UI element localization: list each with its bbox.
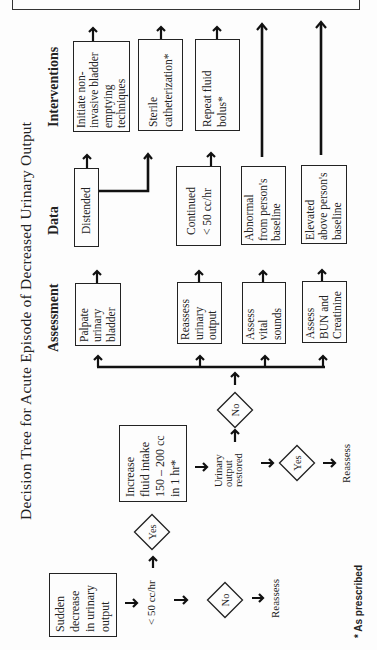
data-box-continued-low-output: Continued < 50 cc/hr <box>176 166 221 246</box>
distended-connector-line <box>99 155 148 191</box>
box-line: urinary <box>193 286 207 340</box>
box-line: urinary <box>91 287 105 342</box>
arrow-right-icon <box>259 271 267 282</box>
condition-label: < 50 cc/hr <box>146 580 157 625</box>
box-line: BUN and <box>318 285 332 339</box>
box-line: Assess <box>304 285 318 339</box>
label-line: restored <box>234 453 244 487</box>
assessment-box-palpate-bladder: Palpate urinary bladder <box>75 283 121 346</box>
box-line: fluid intake <box>138 430 153 497</box>
data-box-abnormal-baseline: Abnormal from person's baseline <box>241 166 286 245</box>
box-line: output <box>98 578 113 632</box>
box-line: in 1 hr* <box>168 430 183 497</box>
box-line: decrease <box>68 578 83 632</box>
box-line: < 50 cc/hr <box>199 170 215 235</box>
reassess-label-1: Reassess <box>270 579 281 618</box>
box-line: output <box>206 286 220 340</box>
arrow-right-icon <box>231 430 239 442</box>
box-line: Initiate non- <box>75 45 89 128</box>
box-line: Reassess <box>179 286 193 340</box>
assessment-box-reassess-output: Reassess urinary output <box>177 282 222 344</box>
box-line: bolus* <box>215 43 230 127</box>
box-line: from person's <box>257 170 271 241</box>
box-line: bladder <box>105 287 119 342</box>
assessment-box-vital-sounds: Assess vital sounds <box>242 282 286 344</box>
decision-yes-2-label: Yes <box>292 455 303 470</box>
box-line: Continued <box>183 170 199 235</box>
box-line: Sterile <box>146 43 161 127</box>
arrow-down-icon <box>323 459 335 467</box>
intervention-box-sterile-catheterization: Sterile catheterization* <box>138 39 183 131</box>
box-line: Repeat fluid <box>200 43 215 127</box>
box-line: Distended <box>80 172 94 234</box>
arrow-right-icon <box>318 270 326 281</box>
footnote: * As prescribed <box>353 565 364 638</box>
box-line: Creatinine <box>331 285 345 339</box>
arrow-right-icon <box>89 28 97 41</box>
box-line: Increase <box>123 430 138 497</box>
arrow-down-icon <box>125 599 137 607</box>
arrow-down-icon <box>252 594 263 602</box>
arrow-right-icon <box>231 373 239 385</box>
data-box-elevated-baseline: Elevated above person's baseline <box>301 165 347 244</box>
box-line: sounds <box>271 286 285 340</box>
arrow-right-icon <box>319 356 327 367</box>
page: Decision Tree for Acute Episode of Decre… <box>0 0 377 650</box>
intervention-box-repeat-fluid-bolus: Repeat fluid bolus* <box>195 39 240 131</box>
arrow-right-icon <box>196 356 204 367</box>
arrow-right-icon <box>94 356 102 367</box>
box-line: baseline <box>331 169 345 240</box>
box-line: Sudden <box>53 578 68 632</box>
reassess-label-2: Reassess <box>341 444 352 483</box>
box-line: techniques <box>115 45 129 128</box>
arrow-right-icon <box>213 27 221 39</box>
arrow-right-icon <box>261 356 269 367</box>
arrow-down-icon <box>261 459 273 467</box>
arrow-right-icon <box>83 155 91 168</box>
urinary-output-restored-label: Urinary output restored <box>214 453 244 487</box>
box-line: Palpate <box>78 287 92 342</box>
arrow-down-icon <box>195 463 207 471</box>
box-line: Elevated <box>304 169 318 240</box>
decision-tree-diagram: Decision Tree for Acute Episode of Decre… <box>0 0 377 650</box>
box-line: vital <box>257 286 271 340</box>
box-line: Abnormal <box>243 170 257 241</box>
decision-no-2-label: No <box>230 404 241 417</box>
box-line: invasive bladder <box>88 45 102 128</box>
box-line: Assess <box>244 286 258 340</box>
box-line: baseline <box>270 170 284 241</box>
action-box-increase-fluid: Increase fluid intake 150 – 200 cc in 1 … <box>119 425 187 502</box>
arrow-right-icon <box>149 557 157 568</box>
box-line: catheterization* <box>161 43 176 127</box>
box-line: 150 – 200 cc <box>153 430 168 497</box>
box-line: above person's <box>317 169 331 240</box>
arrow-right-icon <box>195 271 203 282</box>
decision-no-1-label: No <box>220 594 231 607</box>
box-line: emptying <box>102 45 116 128</box>
data-box-distended: Distended <box>74 168 99 247</box>
start-box-sudden-decrease: Sudden decrease in urinary output <box>49 573 117 637</box>
box-line: in urinary <box>83 578 98 632</box>
intervention-box-bladder-emptying: Initiate non- invasive bladder emptying … <box>73 41 130 132</box>
arrow-right-icon <box>207 153 215 166</box>
arrow-down-icon <box>174 596 187 604</box>
arrow-right-icon <box>93 271 101 283</box>
arrow-right-icon <box>157 27 165 39</box>
decision-yes-1-label: Yes <box>147 524 158 539</box>
assessment-box-bun-creatinine: Assess BUN and Creatinine <box>302 281 347 343</box>
